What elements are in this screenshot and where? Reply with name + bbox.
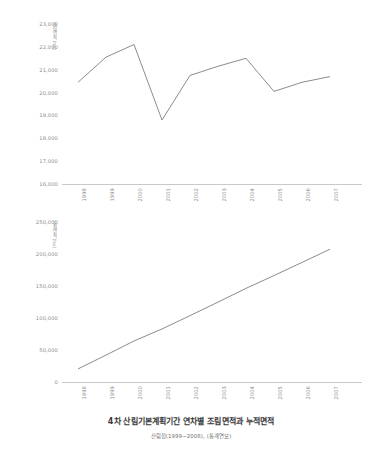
x-tick-label: 1998 <box>81 188 87 202</box>
x-tick-label: 2007 <box>333 188 339 202</box>
chart-annual-afforestation: 23,00022,00021,00020,00019,00018,00017,0… <box>0 18 382 214</box>
y-tick-label: 0 <box>2 379 58 385</box>
x-tick-label: 2000 <box>137 386 143 400</box>
x-tick-label: 1998 <box>81 386 87 400</box>
x-tick-label: 2002 <box>193 188 199 202</box>
x-tick-label: 2006 <box>305 188 311 202</box>
x-tick-label: 2004 <box>249 188 255 202</box>
figure-afforestation: 23,00022,00021,00020,00019,00018,00017,0… <box>0 0 382 462</box>
y-tick-label: 21,000 <box>2 67 58 73</box>
x-axis-tick-labels-top: 1998199920002001200220032004200520062007 <box>62 186 362 220</box>
x-tick-label: 2007 <box>333 386 339 400</box>
figure-title: 4차 산림기본계획기간 연차별 조림면적과 누적면적 <box>0 416 382 428</box>
y-tick-label: 17,000 <box>2 158 58 164</box>
x-tick-label: 2004 <box>249 386 255 400</box>
x-axis-line-top <box>62 184 362 185</box>
y-tick-label: 100,000 <box>2 315 58 321</box>
y-axis-title-top: 조림면적 (ha) <box>47 22 57 50</box>
y-tick-label: 18,000 <box>2 135 58 141</box>
x-tick-label: 2005 <box>277 386 283 400</box>
line-path-cumulative <box>78 249 330 369</box>
x-tick-label: 2003 <box>221 188 227 202</box>
figure-source: 산림청(1999~2008), (통계연보) <box>0 431 382 441</box>
y-tick-label: 50,000 <box>2 347 58 353</box>
x-axis-tick-labels-bottom: 1998199920002001200220032004200520062007 <box>62 384 362 418</box>
y-tick-label: 19,000 <box>2 112 58 118</box>
y-tick-label: 16,000 <box>2 181 58 187</box>
y-tick-label: 20,000 <box>2 90 58 96</box>
x-tick-label: 2000 <box>137 188 143 202</box>
caption-block: 4차 산림기본계획기간 연차별 조림면적과 누적면적 산림청(1999~2008… <box>0 416 382 441</box>
x-tick-label: 1999 <box>109 386 115 400</box>
x-tick-label: 2002 <box>193 386 199 400</box>
x-tick-label: 2003 <box>221 386 227 400</box>
y-axis-title-bottom: 누적면적 (ha) <box>47 220 57 248</box>
x-tick-label: 1999 <box>109 188 115 202</box>
y-tick-label: 150,000 <box>2 283 58 289</box>
x-tick-label: 2001 <box>165 386 171 400</box>
y-tick-label: 200,000 <box>2 251 58 257</box>
x-tick-label: 2005 <box>277 188 283 202</box>
x-tick-label: 2001 <box>165 188 171 202</box>
line-series-cumulative <box>62 222 360 382</box>
line-path-annual <box>78 45 330 120</box>
x-axis-line-bottom <box>62 382 362 383</box>
chart-cumulative-afforestation: 250,000200,000150,000100,00050,0000 누적면적… <box>0 216 382 412</box>
line-series-annual <box>62 24 360 184</box>
x-tick-label: 2006 <box>305 386 311 400</box>
